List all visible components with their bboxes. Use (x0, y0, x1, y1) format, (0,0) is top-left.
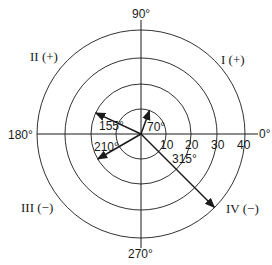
label-90deg: 90° (132, 7, 150, 21)
polar-diagram-svg: 0° 90° 180° 270° 10 20 30 40 70° 155° 21… (0, 0, 272, 265)
ring-label-30: 30 (211, 138, 225, 152)
angle-label-155: 155° (99, 119, 124, 133)
quadrant-label-4: IV (−) (226, 201, 259, 216)
quadrant-label-1: I (+) (221, 52, 245, 67)
ring-label-40: 40 (237, 138, 251, 152)
angle-label-70: 70° (147, 120, 165, 134)
polar-diagram: 0° 90° 180° 270° 10 20 30 40 70° 155° 21… (0, 0, 272, 265)
vector-315 (141, 134, 215, 208)
ring-label-10: 10 (160, 138, 174, 152)
quadrant-label-3: III (−) (21, 200, 53, 215)
label-180deg: 180° (8, 128, 33, 142)
label-0deg: 0° (259, 127, 271, 141)
angle-label-210: 210° (94, 140, 119, 154)
label-270deg: 270° (128, 247, 153, 261)
ring-label-20: 20 (185, 138, 199, 152)
quadrant-label-2: II (+) (30, 49, 58, 64)
angle-label-315: 315° (172, 152, 197, 166)
